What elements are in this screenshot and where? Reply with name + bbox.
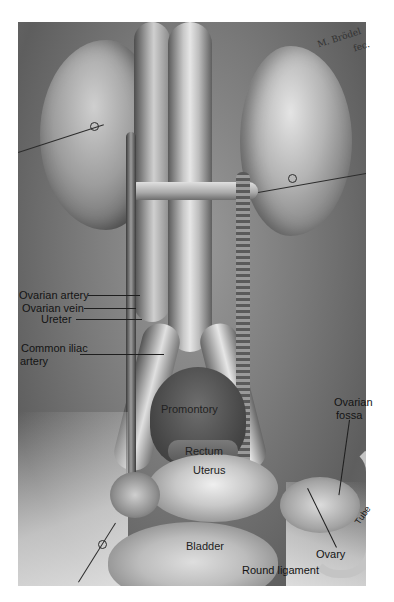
inferior-vena-cava xyxy=(134,22,170,322)
label-ureter: Ureter xyxy=(41,313,72,325)
leader-common-iliac xyxy=(80,354,164,355)
label-common-iliac-line2: artery xyxy=(20,355,48,367)
leader-ovarian-artery xyxy=(88,295,140,296)
label-promontory: Promontory xyxy=(161,403,218,415)
leader-ureter xyxy=(76,319,142,320)
thread-knot-icon xyxy=(90,122,99,131)
label-ovarian-artery: Ovarian artery xyxy=(19,289,89,301)
label-ovary: Ovary xyxy=(316,548,345,560)
label-round-ligament: Round ligament xyxy=(242,564,319,576)
label-rectum: Rectum xyxy=(185,445,223,457)
label-ovarian-fossa-line2: fossa xyxy=(336,409,362,421)
thread-knot-icon xyxy=(98,540,107,549)
right-kidney xyxy=(240,46,352,236)
right-ureter xyxy=(236,172,250,502)
thread-knot-icon xyxy=(288,174,297,183)
label-uterus: Uterus xyxy=(193,464,225,476)
label-ovarian-fossa-line1: Ovarian xyxy=(334,396,373,408)
bladder-shape xyxy=(108,522,278,586)
label-bladder: Bladder xyxy=(186,540,224,552)
left-ovary xyxy=(110,472,160,518)
leader-ovarian-vein xyxy=(84,308,136,309)
label-common-iliac-line1: Common iliac xyxy=(21,342,88,354)
